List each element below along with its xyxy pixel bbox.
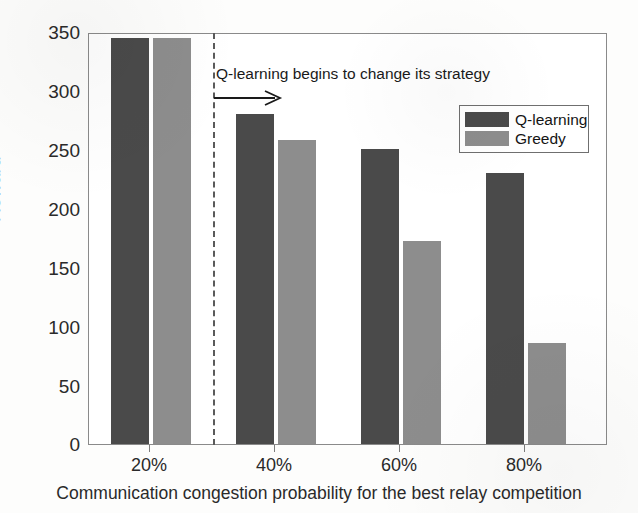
- bar-q-learning-40: [236, 114, 274, 444]
- plot-area: [88, 33, 607, 445]
- legend: Q-learning Greedy: [459, 105, 589, 153]
- x-tick-mark-40: [274, 445, 275, 452]
- legend-swatch-q-learning: [465, 112, 509, 127]
- y-tick-label-100: 100: [24, 317, 80, 339]
- y-axis-title: Reward: [0, 157, 5, 222]
- y-tick-label-50: 50: [24, 376, 80, 398]
- x-tick-mark-80: [524, 445, 525, 452]
- bar-greedy-80: [528, 343, 566, 444]
- x-axis-title: Communication congestion probability for…: [0, 483, 638, 504]
- y-tick-label-300: 300: [24, 81, 80, 103]
- bar-q-learning-20: [111, 38, 149, 444]
- y-tick-label-200: 200: [24, 199, 80, 221]
- bar-q-learning-80: [486, 173, 524, 444]
- y-tick-label-350: 350: [24, 22, 80, 44]
- legend-swatch-greedy: [465, 131, 509, 146]
- x-tick-label-40: 40%: [214, 455, 334, 476]
- bar-q-learning-60: [361, 149, 399, 444]
- legend-item-greedy: Greedy: [465, 129, 583, 148]
- y-tick-label-0: 0: [24, 434, 80, 456]
- strategy-change-annotation: Q-learning begins to change its strategy: [216, 65, 490, 83]
- x-tick-mark-20: [149, 445, 150, 452]
- legend-item-q-learning: Q-learning: [465, 110, 583, 129]
- bar-greedy-40: [278, 140, 316, 444]
- y-tick-label-250: 250: [24, 140, 80, 162]
- x-tick-label-60: 60%: [339, 455, 459, 476]
- x-tick-label-20: 20%: [89, 455, 209, 476]
- figure-canvas: Reward 350 300 250 200 150 100 50 0 Q-le…: [0, 0, 638, 513]
- x-tick-mark-60: [399, 445, 400, 452]
- legend-label-greedy: Greedy: [515, 130, 566, 148]
- right-arrow-icon: [213, 88, 287, 108]
- legend-label-q-learning: Q-learning: [515, 111, 587, 129]
- x-tick-label-80: 80%: [464, 455, 584, 476]
- bar-greedy-60: [403, 241, 441, 444]
- bar-greedy-20: [153, 38, 191, 444]
- y-tick-label-150: 150: [24, 258, 80, 280]
